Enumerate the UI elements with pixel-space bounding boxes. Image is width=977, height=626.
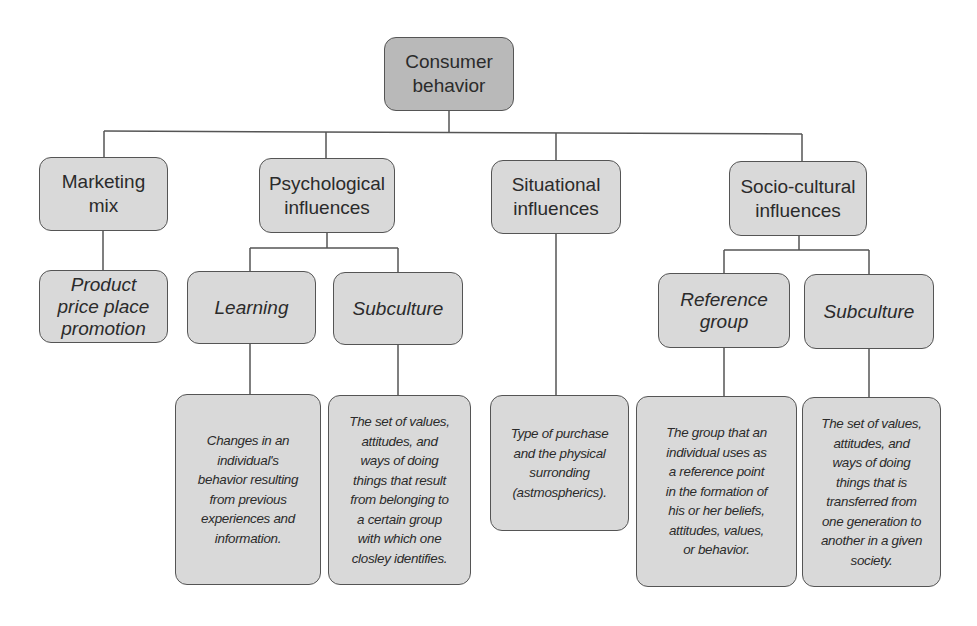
node-label: Socio-cultural influences: [740, 175, 855, 223]
node-label: Situational influences: [512, 173, 601, 221]
node-product-price-place-promotion: Product price place promotion: [39, 270, 168, 343]
node-label: Type of purchase and the physical surron…: [511, 424, 609, 502]
node-reference-group-description: The group that an individual uses as a r…: [636, 396, 797, 587]
node-label: The set of values, attitudes, and ways o…: [821, 414, 922, 570]
node-label: The group that an individual uses as a r…: [666, 423, 767, 560]
node-situational-influences: Situational influences: [491, 160, 621, 234]
node-subculture-psychological: Subculture: [333, 272, 463, 345]
node-marketing-mix: Marketing mix: [39, 157, 168, 231]
node-learning-description: Changes in an individual's behavior resu…: [175, 394, 321, 585]
node-label: Reference group: [680, 289, 768, 333]
node-socio-cultural-influences: Socio-cultural influences: [729, 161, 867, 236]
node-subculture-socio-cultural: Subculture: [804, 274, 934, 349]
node-label: Learning: [215, 297, 289, 319]
node-label: Subculture: [824, 301, 915, 323]
node-label: Subculture: [353, 298, 444, 320]
node-label: Product price place promotion: [58, 274, 150, 340]
node-learning: Learning: [187, 271, 316, 344]
node-label: The set of values, attitudes, and ways o…: [349, 412, 449, 568]
node-consumer-behavior: Consumer behavior: [384, 37, 514, 111]
node-label: Psychological influences: [269, 172, 385, 220]
node-subculture-psychological-description: The set of values, attitudes, and ways o…: [328, 395, 471, 585]
node-psychological-influences: Psychological influences: [259, 158, 395, 233]
node-reference-group: Reference group: [658, 273, 790, 348]
node-label: Consumer behavior: [404, 50, 494, 98]
node-subculture-socio-cultural-description: The set of values, attitudes, and ways o…: [802, 397, 941, 587]
node-label: Changes in an individual's behavior resu…: [198, 431, 298, 548]
node-label: Marketing mix: [62, 170, 145, 218]
node-situational-description: Type of purchase and the physical surron…: [490, 395, 629, 531]
